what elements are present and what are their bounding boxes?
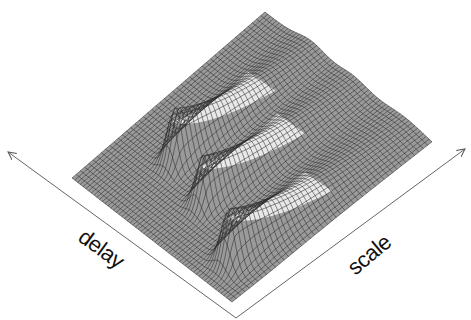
wireframe-surface-plot — [0, 0, 471, 320]
figure: delay scale — [0, 0, 471, 320]
